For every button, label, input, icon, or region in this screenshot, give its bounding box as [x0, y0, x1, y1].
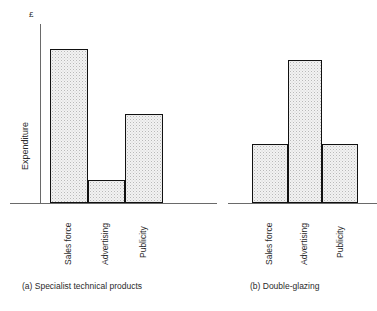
- bar-a-sales-force: [50, 49, 88, 203]
- bar-b-publicity: [322, 144, 358, 203]
- y-axis-line-a: [40, 24, 41, 204]
- bar-a-publicity: [125, 114, 163, 204]
- figure-bar-charts: £ Expenditure Sales force Advertising Pu…: [0, 0, 377, 311]
- plot-area-b: [252, 24, 358, 203]
- x-label-a-advertising: Advertising: [100, 223, 110, 265]
- x-label-b-sales-force: Sales force: [264, 222, 274, 265]
- bar-b-sales-force: [252, 144, 288, 203]
- x-label-a-sales-force: Sales force: [63, 222, 73, 265]
- x-label-b-advertising: Advertising: [299, 223, 309, 265]
- x-label-a-publicity: Publicity: [138, 226, 148, 258]
- bar-a-advertising: [88, 180, 125, 203]
- plot-area-a: [50, 24, 163, 203]
- y-axis-title-a: Expenditure: [20, 122, 30, 170]
- x-axis-line-b: [228, 203, 377, 204]
- x-label-b-publicity: Publicity: [335, 226, 345, 258]
- chart-panel-a: £ Expenditure Sales force Advertising Pu…: [0, 0, 228, 311]
- chart-panel-b: Sales force Advertising Publicity (b) Do…: [228, 0, 377, 311]
- x-axis-line-a: [10, 203, 217, 204]
- caption-a: (a) Specialist technical products: [22, 281, 142, 291]
- y-axis-unit-label: £: [29, 11, 33, 19]
- bar-b-advertising: [288, 60, 322, 203]
- caption-b: (b) Double-glazing: [250, 281, 319, 291]
